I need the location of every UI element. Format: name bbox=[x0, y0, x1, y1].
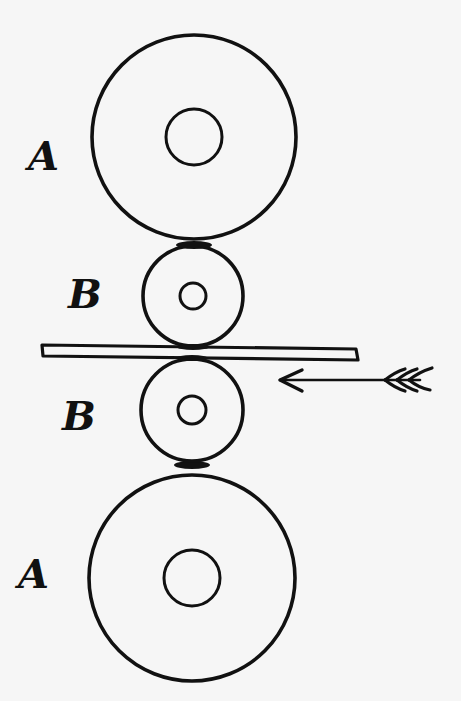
contact-a-b-top bbox=[176, 241, 212, 249]
feed-direction-arrow-icon bbox=[280, 368, 432, 391]
roller-b-top bbox=[143, 246, 243, 346]
label-a-bottom: A bbox=[14, 550, 49, 597]
label-a-top: A bbox=[24, 132, 59, 179]
roller-a-top bbox=[92, 35, 296, 239]
label-b-top: B bbox=[67, 270, 102, 317]
roller-b-bottom bbox=[141, 359, 243, 461]
label-b-bottom: B bbox=[61, 392, 96, 439]
rolling-mill-diagram: A B B A bbox=[0, 0, 461, 701]
roller-a-bottom bbox=[89, 475, 295, 681]
